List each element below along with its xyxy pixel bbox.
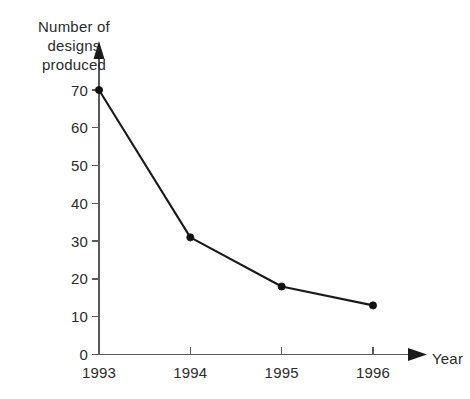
- y-axis-ticks: [92, 90, 99, 355]
- data-point-1994: [187, 234, 194, 241]
- y-axis-tick-labels: 0 10 20 30 40 50 60 70: [71, 82, 88, 364]
- y-tick-label-40: 40: [71, 195, 88, 212]
- y-axis-title-line-3: produced: [42, 56, 106, 73]
- x-tick-label-1995: 1995: [265, 364, 299, 381]
- y-axis-title: Number of designs produced: [38, 18, 110, 73]
- y-tick-label-70: 70: [71, 82, 88, 99]
- y-tick-label-60: 60: [71, 119, 88, 136]
- y-axis-title-line-1: Number of: [38, 18, 110, 35]
- x-axis-tick-labels: 1993 1994 1995 1996: [82, 364, 390, 381]
- line-chart-figure: 0 10 20 30 40 50 60 70 1993 1994 1995 19…: [0, 0, 470, 399]
- chart-canvas: 0 10 20 30 40 50 60 70 1993 1994 1995 19…: [0, 0, 470, 399]
- data-point-1995: [278, 283, 285, 290]
- x-tick-label-1996: 1996: [356, 364, 390, 381]
- data-point-1993: [95, 86, 102, 93]
- x-axis-group: [99, 348, 427, 361]
- x-axis-title: Year: [432, 350, 463, 367]
- y-tick-label-30: 30: [71, 233, 88, 250]
- y-tick-label-50: 50: [71, 157, 88, 174]
- y-tick-label-10: 10: [71, 308, 88, 325]
- x-tick-label-1993: 1993: [82, 364, 116, 381]
- y-axis-title-line-2: designs: [47, 37, 100, 54]
- x-axis-arrow-icon: [408, 348, 427, 361]
- x-axis-ticks: [99, 347, 373, 355]
- data-series-markers: [95, 86, 376, 309]
- y-tick-label-20: 20: [71, 270, 88, 287]
- data-point-1996: [369, 302, 376, 309]
- data-series-line: [99, 90, 373, 305]
- y-tick-label-0: 0: [79, 346, 88, 363]
- x-tick-label-1994: 1994: [173, 364, 207, 381]
